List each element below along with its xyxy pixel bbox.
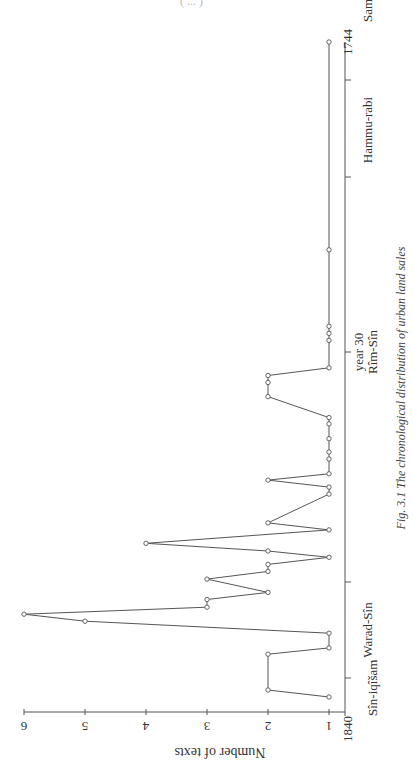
count-tick-label: 4	[142, 719, 149, 734]
data-point	[266, 521, 270, 525]
reign-label-sin-iqisam: Sîn-iqîšam	[365, 660, 380, 716]
data-point	[327, 415, 331, 419]
data-point	[266, 652, 270, 656]
series-markers	[22, 40, 331, 699]
reign-label-hammu-rabi: Hammu-rabi	[360, 96, 375, 163]
x-tick-end-year: 1744	[340, 29, 355, 56]
data-point	[266, 478, 270, 482]
data-point	[205, 597, 209, 601]
series-number-of-texts	[22, 40, 331, 699]
y-axis-title: Number of texts	[175, 745, 266, 760]
data-point	[266, 590, 270, 594]
data-point	[327, 331, 331, 335]
count-tick-label: 6	[20, 719, 27, 734]
x-tick-start-year: 1840	[340, 716, 355, 742]
data-point	[327, 457, 331, 461]
count-tick-label: 2	[265, 719, 272, 734]
data-point	[266, 688, 270, 692]
data-point	[266, 549, 270, 553]
time-axis-ticks	[345, 80, 351, 678]
data-point	[144, 541, 148, 545]
data-point	[22, 612, 26, 616]
data-point	[266, 380, 270, 384]
data-point	[327, 40, 331, 44]
data-point	[327, 485, 331, 489]
series-line	[24, 42, 329, 697]
data-point	[327, 631, 331, 635]
reign-label-rim-sin: Rîm-Sîn	[365, 329, 380, 374]
data-point	[327, 646, 331, 650]
reign-label-warad-sin: Warad-Sîn	[360, 602, 375, 658]
data-point	[327, 338, 331, 342]
data-point	[327, 492, 331, 496]
data-point	[327, 366, 331, 370]
data-point	[266, 562, 270, 566]
count-axis-labels: 123456	[20, 719, 332, 734]
data-point	[205, 577, 209, 581]
data-point	[327, 555, 331, 559]
data-point	[266, 373, 270, 377]
data-point	[327, 422, 331, 426]
data-point	[327, 324, 331, 328]
data-point	[327, 450, 331, 454]
reign-label-samsu-iluna: Samsu-iluna	[360, 0, 375, 22]
data-point	[266, 394, 270, 398]
data-point	[205, 605, 209, 609]
count-tick-label: 3	[204, 719, 211, 734]
data-point	[327, 248, 331, 252]
figure-caption: Fig. 3.1 The chronological distribution …	[394, 246, 408, 530]
data-point	[327, 528, 331, 532]
data-point	[327, 437, 331, 441]
data-point	[266, 569, 270, 573]
x-tick-year-30: year 30	[351, 333, 366, 372]
count-tick-label: 5	[82, 719, 89, 734]
axes	[24, 42, 351, 716]
data-point	[327, 695, 331, 699]
count-tick-label: 1	[326, 719, 333, 734]
data-point	[327, 472, 331, 476]
line-chart: 123456 Number of texts 1840 1744 year 30…	[0, 0, 414, 782]
data-point	[83, 619, 87, 623]
